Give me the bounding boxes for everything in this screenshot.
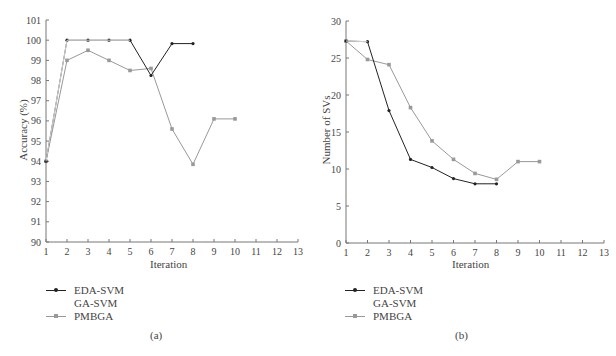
data-point	[409, 158, 412, 161]
x-tick-label: 7	[473, 247, 478, 258]
y-axis-title-a: Accuracy (%)	[17, 95, 29, 165]
data-point	[107, 59, 111, 63]
data-point	[516, 160, 520, 164]
y-tick-label: 98	[31, 75, 41, 86]
data-point	[86, 48, 90, 52]
data-point	[387, 109, 390, 112]
legend-label: PMBGA	[373, 310, 412, 323]
x-tick-label: 3	[387, 247, 392, 258]
data-point	[452, 158, 456, 162]
legend-a: EDA-SVM GA-SVM PMBGA	[46, 284, 124, 323]
data-point	[149, 74, 152, 77]
x-tick-label: 5	[430, 247, 435, 258]
y-tick-label: 91	[31, 216, 41, 227]
y-tick-label: 94	[31, 156, 41, 167]
x-tick-label: 4	[107, 246, 112, 257]
data-point	[473, 172, 477, 176]
legend-label: EDA-SVM	[74, 284, 124, 297]
data-point	[538, 160, 542, 164]
x-tick-label: 1	[344, 247, 349, 258]
legend-b: EDA-SVM GA-SVM PMBGA	[345, 284, 423, 323]
legend-item-pmbga: PMBGA	[345, 310, 423, 323]
y-tick-label: 10	[331, 164, 341, 175]
data-point	[430, 166, 433, 169]
y-tick-label: 20	[331, 90, 341, 101]
data-point	[409, 106, 413, 110]
data-point	[191, 42, 194, 45]
legend-label: GA-SVM	[74, 297, 117, 310]
panel-caption-a: (a)	[150, 329, 162, 341]
legend-label: PMBGA	[74, 310, 113, 323]
y-tick-label: 5	[336, 201, 341, 212]
x-tick-label: 9	[516, 247, 521, 258]
x-tick-label: 4	[408, 247, 413, 258]
y-tick-label: 101	[26, 15, 41, 26]
data-point	[387, 63, 391, 67]
data-point	[495, 178, 499, 182]
x-tick-label: 7	[170, 246, 175, 257]
legend-item-pmbga: PMBGA	[46, 310, 124, 323]
data-point	[191, 163, 195, 167]
data-point	[170, 42, 173, 45]
line-white-marker-icon	[345, 297, 365, 310]
y-tick-label: 100	[26, 35, 41, 46]
data-point	[149, 67, 153, 71]
legend-label: GA-SVM	[373, 297, 416, 310]
y-tick-label: 90	[31, 237, 41, 248]
x-tick-label: 2	[365, 247, 370, 258]
x-tick-label: 9	[212, 246, 217, 257]
panel-caption-b: (b)	[455, 329, 468, 341]
data-point	[452, 177, 455, 180]
y-tick-label: 97	[31, 95, 41, 106]
y-tick-label: 0	[336, 238, 341, 249]
data-point	[495, 182, 498, 185]
data-point	[473, 182, 476, 185]
data-point	[430, 139, 434, 143]
x-tick-label: 11	[251, 246, 261, 257]
data-point	[366, 58, 370, 62]
legend-label: EDA-SVM	[373, 284, 423, 297]
line-square-marker-icon	[46, 310, 66, 323]
x-tick-label: 8	[494, 247, 499, 258]
y-tick-label: 30	[331, 16, 341, 27]
y-tick-label: 15	[331, 127, 341, 138]
legend-item-ga-svm: GA-SVM	[46, 297, 124, 310]
x-tick-label: 3	[86, 246, 91, 257]
legend-item-eda-svm: EDA-SVM	[345, 284, 423, 297]
x-tick-label: 8	[191, 246, 196, 257]
line-white-marker-icon	[46, 297, 66, 310]
x-tick-label: 6	[149, 246, 154, 257]
x-axis-title-a: Iteration	[150, 258, 187, 270]
y-tick-label: 95	[31, 136, 41, 147]
data-point	[170, 127, 174, 131]
data-point	[233, 117, 237, 121]
line-square-marker-icon	[345, 310, 365, 323]
y-tick-label: 25	[331, 53, 341, 64]
accuracy-chart: 9091929394959697989910010112345678910111…	[26, 15, 303, 258]
line-dot-marker-icon	[345, 284, 365, 297]
x-tick-label: 13	[293, 246, 303, 257]
y-tick-label: 93	[31, 176, 41, 187]
x-tick-label: 12	[578, 247, 588, 258]
y-axis-title-b: Number of SVs	[320, 90, 332, 170]
x-tick-label: 10	[230, 246, 240, 257]
data-point	[128, 69, 132, 73]
x-axis-title-b: Iteration	[452, 258, 489, 270]
x-tick-label: 2	[65, 246, 70, 257]
legend-item-eda-svm: EDA-SVM	[46, 284, 124, 297]
x-tick-label: 11	[556, 247, 566, 258]
series-eda-svm	[44, 39, 194, 163]
series-eda-svm	[344, 39, 498, 185]
y-tick-label: 92	[31, 196, 41, 207]
x-tick-label: 5	[128, 246, 133, 257]
line-dot-marker-icon	[46, 284, 66, 297]
x-tick-label: 6	[451, 247, 456, 258]
x-tick-label: 1	[44, 246, 49, 257]
data-point	[212, 117, 216, 121]
svs-chart: 05101520253012345678910111213	[331, 16, 609, 259]
y-tick-label: 96	[31, 115, 41, 126]
y-tick-label: 99	[31, 55, 41, 66]
series-pmbga	[44, 48, 237, 166]
data-point	[65, 59, 69, 63]
x-tick-label: 12	[272, 246, 282, 257]
